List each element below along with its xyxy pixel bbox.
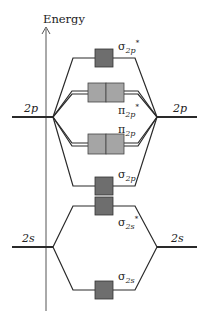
energy-axis bbox=[42, 27, 50, 311]
correlation-lines-2s bbox=[53, 206, 157, 290]
mo-sigma-2p-star: σ2p* bbox=[95, 39, 140, 67]
mo-sigma-2s-star: σ2s* bbox=[95, 197, 139, 231]
left-2s-label: 2s bbox=[21, 232, 35, 245]
mo-label: π2p bbox=[118, 123, 135, 138]
orbital-box bbox=[95, 197, 113, 215]
mo-label: σ2s bbox=[118, 270, 135, 285]
orbital-box bbox=[95, 177, 113, 195]
orbital-box bbox=[106, 83, 124, 102]
orbital-box bbox=[95, 49, 113, 67]
mo-label: σ2p bbox=[118, 168, 136, 183]
right-2s-label: 2s bbox=[170, 232, 184, 245]
mo-sigma-2p: σ2p bbox=[95, 168, 136, 195]
mo-pi-2p: π2p bbox=[88, 123, 135, 154]
mo-label: σ2s* bbox=[118, 215, 139, 231]
mo-label: π2p* bbox=[118, 103, 139, 119]
correlation-lines-2p bbox=[53, 58, 157, 186]
mo-label: σ2p* bbox=[118, 39, 140, 55]
orbital-box bbox=[88, 83, 106, 102]
left-2p-label: 2p bbox=[23, 102, 38, 115]
mo-sigma-2s: σ2s bbox=[95, 270, 135, 299]
right-2p-label: 2p bbox=[172, 102, 187, 115]
orbital-box bbox=[88, 134, 106, 154]
energy-axis-label: Energy bbox=[43, 12, 85, 26]
orbital-box bbox=[106, 134, 124, 154]
mo-pi-2p-star: π2p* bbox=[88, 83, 139, 119]
mo-diagram: Energy 2p 2p 2s 2s σ2p* π2p* bbox=[0, 0, 209, 327]
orbital-box bbox=[95, 281, 113, 299]
